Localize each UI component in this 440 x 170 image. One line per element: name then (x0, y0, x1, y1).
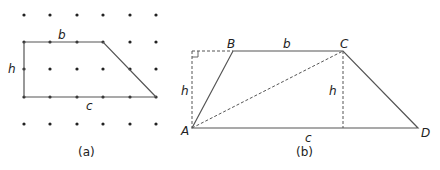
grid-dot (154, 40, 157, 43)
diagonal-ac-dashed (192, 51, 343, 128)
grid-dot (128, 40, 131, 43)
grid-dot (22, 13, 25, 16)
grid-dot (75, 122, 78, 125)
grid-dot (22, 122, 25, 125)
vertex-d-label: D (421, 126, 430, 140)
grid-dot (128, 122, 131, 125)
trapezoid-area-diagram: b h c (a) B C A D b c h h (b) (0, 0, 440, 170)
figure-b: B C A D b c h h (b) (180, 37, 430, 159)
grid-dot (101, 67, 104, 70)
caption-b: (b) (296, 145, 313, 159)
label-h-a: h (8, 62, 16, 76)
label-b-b: b (283, 37, 291, 51)
vertex-b-label: B (227, 37, 235, 51)
grid-dot (101, 122, 104, 125)
label-c-a: c (86, 99, 93, 113)
grid-dot (48, 122, 51, 125)
label-h-left-b: h (181, 84, 189, 98)
label-b-a: b (58, 28, 66, 42)
grid-dot (154, 122, 157, 125)
trapezoid-abcd (192, 51, 418, 128)
label-h-right-b: h (329, 84, 337, 98)
figure-a: b h c (a) (8, 13, 158, 159)
grid-dot (154, 13, 157, 16)
grid-dot (128, 13, 131, 16)
grid-dot (75, 13, 78, 16)
grid-dot (48, 67, 51, 70)
trapezoid-a (24, 42, 156, 97)
right-angle-mark (192, 51, 198, 57)
vertex-a-label: A (180, 124, 189, 138)
grid-dot (101, 13, 104, 16)
grid-dot (75, 67, 78, 70)
vertex-c-label: C (340, 37, 349, 51)
grid-dot (154, 67, 157, 70)
caption-a: (a) (78, 145, 95, 159)
label-c-b: c (305, 131, 312, 145)
grid-dot (48, 13, 51, 16)
